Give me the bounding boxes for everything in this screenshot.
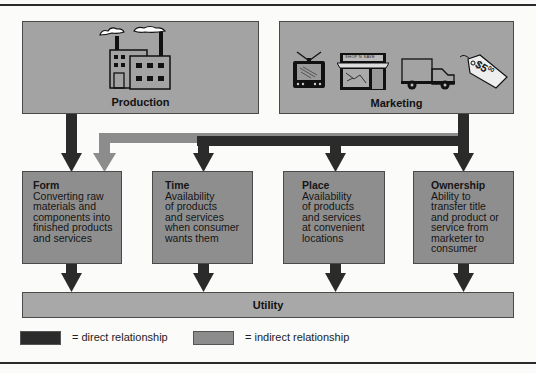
factory-icon bbox=[98, 25, 174, 91]
legend-indirect-label: = indirect relationship bbox=[245, 331, 349, 343]
time-title: Time bbox=[165, 180, 239, 191]
truck-icon bbox=[400, 58, 456, 90]
store-icon: SHOP N SAVE bbox=[337, 53, 389, 90]
store-sign-text: SHOP N SAVE bbox=[345, 54, 375, 60]
utility-bar: Utility bbox=[22, 292, 514, 318]
form-description: Converting raw materials and components … bbox=[33, 191, 112, 244]
place-title: Place bbox=[302, 180, 364, 191]
place-box: Place Availability of products and servi… bbox=[283, 171, 385, 264]
utility-label: Utility bbox=[23, 299, 513, 311]
ownership-title: Ownership bbox=[431, 180, 499, 191]
price-tag-icon: $500 bbox=[458, 53, 510, 91]
marketing-box: SHOP N SAVE $500 Marketing bbox=[279, 21, 514, 114]
place-description: Availability of products and services at… bbox=[302, 191, 364, 244]
bottom-rule bbox=[0, 362, 536, 364]
ownership-description: Ability to transfer title and product or… bbox=[431, 191, 499, 254]
form-box: Form Converting raw materials and compon… bbox=[22, 171, 122, 264]
legend-direct-label: = direct relationship bbox=[72, 331, 168, 343]
production-label: Production bbox=[23, 96, 258, 108]
direct-arrow-marketing bbox=[193, 114, 474, 172]
production-box: Production bbox=[22, 21, 259, 114]
time-box: Time Availability of products and servic… bbox=[152, 171, 253, 264]
marketing-label: Marketing bbox=[280, 97, 513, 109]
time-description: Availability of products and services wh… bbox=[165, 191, 239, 244]
legend-direct-swatch bbox=[20, 331, 61, 345]
legend-indirect-swatch bbox=[193, 331, 234, 345]
ownership-box: Ownership Ability to transfer title and … bbox=[413, 171, 514, 264]
form-title: Form bbox=[33, 180, 112, 191]
direct-arrows-to-utility bbox=[61, 264, 474, 292]
tv-icon bbox=[291, 50, 327, 90]
direct-arrow-production-form bbox=[61, 114, 82, 172]
